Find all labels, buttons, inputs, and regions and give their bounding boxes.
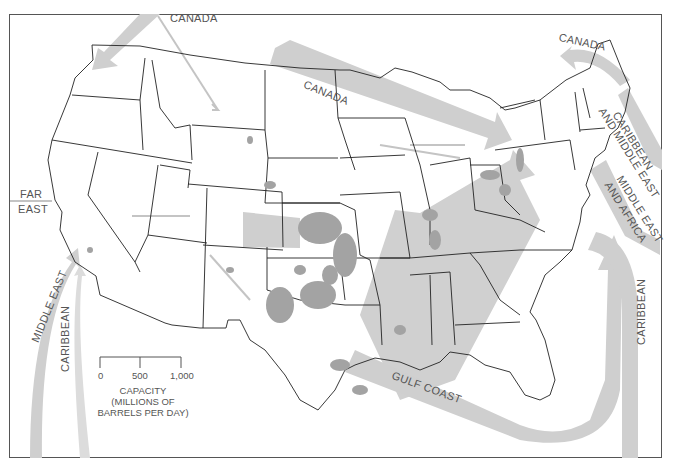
label-caribbean-east: CARIBBEAN — [636, 279, 647, 345]
legend-title: CAPACITY — [78, 385, 208, 396]
legend-subtitle-2: BARRELS PER DAY) — [78, 407, 208, 418]
label-canada-north: CANADA — [170, 13, 218, 24]
band-colorado — [243, 212, 300, 248]
label-far-east-1: FAR — [20, 189, 42, 200]
legend-caption: CAPACITY (MILLIONS OF BARRELS PER DAY) — [78, 385, 208, 418]
arc-caribbean-west — [74, 265, 90, 458]
label-caribbean-west: CARIBBEAN — [60, 306, 71, 372]
arrow-canada-west — [92, 14, 160, 70]
tick-500: 500 — [132, 370, 148, 381]
scale-bar — [100, 357, 181, 368]
legend-subtitle-1: (MILLIONS OF — [78, 396, 208, 407]
band-canada-central — [270, 40, 512, 150]
tick-0: 0 — [98, 370, 103, 381]
label-far-east-2: EAST — [18, 204, 48, 215]
tick-1000: 1,000 — [170, 370, 194, 381]
